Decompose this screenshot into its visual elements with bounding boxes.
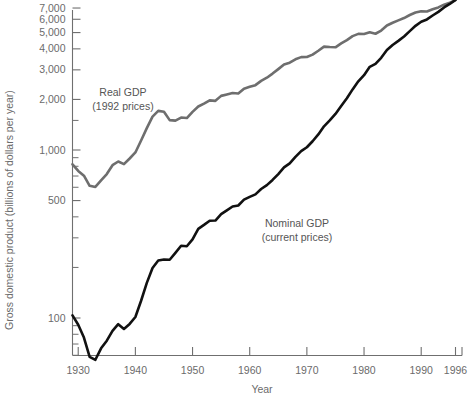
y-tick-label: 6,000 bbox=[39, 13, 65, 25]
x-tick-label: 1930 bbox=[67, 364, 91, 376]
y-tick-label: 7,000 bbox=[39, 2, 65, 14]
x-tick-label: 1970 bbox=[295, 364, 319, 376]
x-tick-label: 1950 bbox=[181, 364, 205, 376]
y-tick-label: 4,000 bbox=[39, 42, 65, 54]
y-tick-label: 3,000 bbox=[39, 63, 65, 75]
y-tick-label: 5,000 bbox=[39, 26, 65, 38]
chart-canvas: Gross domestic product (billions of doll… bbox=[0, 0, 473, 412]
y-tick-label: 100 bbox=[48, 312, 66, 324]
x-tick-label: 1980 bbox=[352, 364, 376, 376]
real-gdp-label-line1: Real GDP bbox=[99, 86, 146, 98]
x-axis-tick-labels: 19301940195019601970198019901996 bbox=[67, 364, 468, 376]
x-tick-label: 1990 bbox=[410, 364, 434, 376]
x-tick-label: 1940 bbox=[124, 364, 148, 376]
y-tick-label: 1,000 bbox=[39, 144, 65, 156]
y-axis-major-ticks bbox=[73, 8, 81, 318]
nominal-gdp-annotation: Nominal GDP (current prices) bbox=[262, 217, 333, 243]
gdp-log-chart: Gross domestic product (billions of doll… bbox=[0, 0, 473, 412]
series-line-nominal-gdp bbox=[73, 0, 456, 360]
real-gdp-annotation: Real GDP (1992 prices) bbox=[92, 86, 153, 112]
y-tick-label: 2,000 bbox=[39, 93, 65, 105]
x-axis-title: Year bbox=[251, 383, 273, 395]
y-tick-label: 500 bbox=[48, 194, 66, 206]
nominal-gdp-label-line2: (current prices) bbox=[262, 231, 333, 243]
x-tick-label: 1960 bbox=[238, 364, 262, 376]
y-axis-title: Gross domestic product (billions of doll… bbox=[3, 90, 15, 330]
x-axis-ticks bbox=[78, 347, 462, 356]
real-gdp-label-line2: (1992 prices) bbox=[92, 100, 153, 112]
nominal-gdp-label-line1: Nominal GDP bbox=[265, 217, 329, 229]
y-axis-tick-labels: 1005001,0002,0003,0004,0005,0006,0007,00… bbox=[39, 2, 65, 324]
x-tick-label: 1996 bbox=[444, 364, 468, 376]
